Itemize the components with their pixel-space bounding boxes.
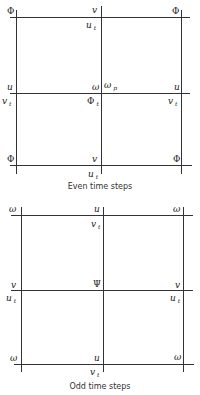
even-label-mid-right: u [174, 83, 180, 92]
odd-grid-line-middle [11, 290, 193, 291]
even-label-bottom-left: Φ [7, 155, 14, 164]
even-caption: Even time steps [0, 182, 200, 191]
even-grid-line-left [16, 10, 17, 174]
odd-grid-line-top [11, 215, 193, 216]
even-label-bottom-right: Φ [173, 155, 180, 164]
odd-label-top-right: ω [173, 205, 180, 214]
odd-grid-line-bottom [14, 364, 194, 365]
odd-label-bottom-right: ω [174, 353, 181, 362]
odd-label-mid-right-below: ut [170, 294, 180, 303]
even-label-top-mid: v [92, 6, 97, 15]
even-label-top-left: Φ [7, 7, 14, 16]
odd-label-bottom-mid-below: vt [90, 368, 100, 377]
odd-label-top-left: ω [9, 205, 16, 214]
odd-label-mid-right: v [175, 281, 180, 290]
odd-label-mid-left: v [11, 281, 16, 290]
even-grid-line-center [101, 6, 102, 174]
even-label-mid-center-right: ωp [104, 81, 117, 90]
odd-label-bottom-left: ω [10, 354, 17, 363]
even-label-mid-center: ω [92, 83, 99, 92]
odd-grid-line-center [103, 207, 104, 372]
even-label-top-right: Φ [172, 7, 179, 16]
even-label-top-mid-below: ut [86, 21, 96, 30]
even-label-mid-right-below: vt [168, 97, 178, 106]
odd-label-bottom-mid: u [94, 354, 100, 363]
odd-label-mid-center: Ψ [93, 280, 101, 289]
odd-grid-line-left [21, 207, 22, 372]
odd-label-mid-left-below: ut [6, 294, 16, 303]
even-label-mid-left: u [7, 83, 13, 92]
odd-label-top-mid: u [94, 205, 100, 214]
even-label-mid-center-below: Φt [87, 97, 99, 106]
even-grid-line-top [10, 17, 190, 18]
even-label-bottom-mid: v [92, 155, 97, 164]
even-grid-line-middle [10, 93, 190, 94]
odd-label-top-mid-below: vt [91, 220, 101, 229]
odd-grid-line-right [183, 207, 184, 372]
odd-caption: Odd time steps [0, 382, 200, 391]
even-grid-line-right [181, 10, 182, 174]
even-label-mid-left-below: vt [2, 97, 12, 106]
even-label-bottom-mid-below: ut [88, 170, 98, 179]
